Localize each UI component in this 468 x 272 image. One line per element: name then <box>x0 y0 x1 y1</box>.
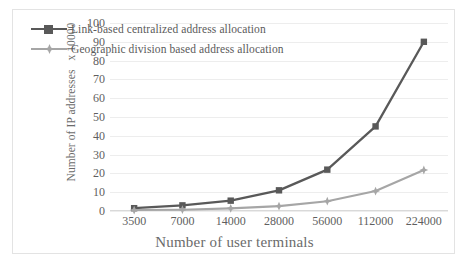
data-point-marker <box>371 187 380 196</box>
legend-item-series-1[interactable]: Link-based centralized address allocatio… <box>31 19 284 39</box>
legend-key-square-icon <box>31 23 67 35</box>
data-point-marker <box>323 197 332 206</box>
x-tick-label: 224000 <box>406 214 442 229</box>
data-point-marker <box>276 187 282 193</box>
x-axis-title: Number of user terminals <box>13 234 456 251</box>
series-line-1 <box>134 42 424 208</box>
legend-key-star-icon <box>31 43 67 55</box>
data-point-marker <box>419 166 428 175</box>
y-tick-label: 20 <box>93 167 105 179</box>
x-tick-label: 7000 <box>170 214 194 229</box>
y-tick-label: 40 <box>93 130 105 142</box>
x-tick-label: 28000 <box>264 214 294 229</box>
y-tick-label: 70 <box>93 73 105 85</box>
chart-container: Number of IP addresses x 10000 010203040… <box>12 9 455 254</box>
x-axis-tick-labels: 35007000140002800056000112000224000 <box>110 214 448 230</box>
data-point-marker <box>372 123 378 129</box>
legend-label-series-2: Geographic division based address alloca… <box>71 43 284 55</box>
gridline <box>110 211 448 212</box>
x-tick-label: 14000 <box>216 214 246 229</box>
data-point-marker <box>275 202 284 211</box>
chart-legend: Link-based centralized address allocatio… <box>31 19 284 59</box>
x-tick-label: 3500 <box>122 214 146 229</box>
legend-label-series-1: Link-based centralized address allocatio… <box>71 23 266 35</box>
x-tick-label: 112000 <box>358 214 394 229</box>
data-point-marker <box>228 197 234 203</box>
data-point-marker <box>421 39 427 45</box>
y-tick-label: 50 <box>93 111 105 123</box>
x-tick-label: 56000 <box>312 214 342 229</box>
y-tick-label: 10 <box>93 186 105 198</box>
y-tick-label: 30 <box>93 149 105 161</box>
legend-item-series-2[interactable]: Geographic division based address alloca… <box>31 39 284 59</box>
y-tick-label: 0 <box>99 205 105 217</box>
y-tick-label: 60 <box>93 92 105 104</box>
data-point-marker <box>324 166 330 172</box>
